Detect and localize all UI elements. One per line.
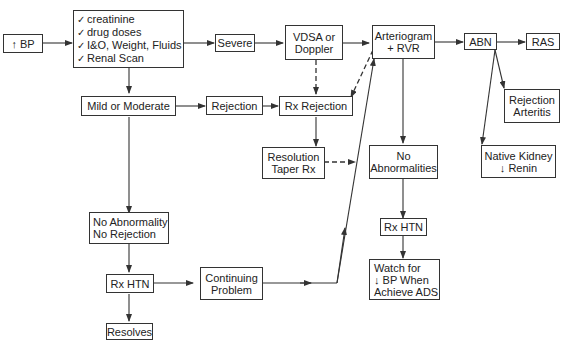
check-label: I&O, Weight, Fluids: [87, 39, 182, 51]
node-checks: ✓creatinine ✓drug doses ✓I&O, Weight, Fl…: [73, 10, 184, 68]
node-label: ↓ BP When: [374, 274, 429, 286]
node-label: Resolution: [268, 151, 320, 163]
edge-abn-native-kidney: [482, 50, 495, 144]
node-rejection: Rejection: [206, 96, 263, 115]
edge-continuing-arteriogram-mid: [337, 228, 345, 283]
node-label: Rx HTN: [110, 278, 149, 290]
node-label: Watch for: [374, 262, 421, 274]
node-label: VDSA or: [293, 31, 335, 43]
node-label: Arteritis: [513, 106, 550, 118]
node-label: No: [396, 150, 410, 162]
node-label: Problem: [211, 284, 252, 296]
node-label: + RVR: [387, 42, 420, 54]
check-label: Renal Scan: [87, 52, 144, 64]
node-label: No Abnormality: [93, 216, 168, 228]
node-rejection-arteritis: Rejection Arteritis: [504, 89, 560, 123]
node-rx-rejection: Rx Rejection: [279, 96, 353, 116]
checkmark-icon: ✓: [77, 27, 85, 38]
node-resolves: Resolves: [106, 323, 153, 340]
checkmark-icon: ✓: [77, 53, 85, 64]
node-ras: RAS: [526, 33, 560, 50]
edge-abn-rejection-arteritis: [495, 50, 504, 88]
check-item: ✓drug doses: [77, 26, 141, 39]
node-vdsa-doppler: VDSA or Doppler: [285, 25, 343, 60]
node-label: Rx Rejection: [285, 100, 347, 112]
check-item: ✓I&O, Weight, Fluids: [77, 39, 182, 52]
node-label: ↓ Renin: [500, 162, 537, 174]
node-abn: ABN: [464, 33, 497, 50]
node-native-kidney: Native Kidney ↓ Renin: [481, 145, 556, 178]
node-label: Rejection: [212, 100, 258, 112]
node-watch-for: Watch for ↓ BP When Achieve ADS: [369, 259, 440, 300]
node-label: ABN: [469, 36, 492, 48]
checkmark-icon: ✓: [77, 14, 85, 25]
node-label: Native Kidney: [485, 150, 553, 162]
node-label: Mild or Moderate: [87, 100, 170, 112]
node-rx-htn-right: Rx HTN: [380, 218, 427, 236]
node-label: Severe: [218, 37, 253, 49]
node-label: Resolves: [107, 326, 152, 338]
node-label: No Rejection: [93, 228, 156, 240]
node-label: Rx HTN: [384, 221, 423, 233]
node-label: ↑ BP: [11, 38, 34, 50]
node-label: Taper Rx: [271, 163, 315, 175]
check-label: drug doses: [87, 26, 141, 38]
node-resolution-taper: Resolution Taper Rx: [262, 147, 325, 179]
node-label: Achieve ADS: [374, 286, 438, 298]
node-label: Rejection: [509, 94, 555, 106]
node-label: RAS: [532, 36, 555, 48]
check-label: creatinine: [87, 13, 135, 25]
node-continuing-problem: Continuing Problem: [200, 267, 263, 300]
node-no-abnormality-no-rejection: No Abnormality No Rejection: [89, 212, 169, 244]
node-mild-moderate: Mild or Moderate: [81, 96, 176, 116]
check-item: ✓Renal Scan: [77, 52, 144, 65]
node-no-abnormalities: No Abnormalities: [369, 145, 438, 179]
node-label: Abnormalities: [370, 162, 437, 174]
node-elevated-bp: ↑ BP: [3, 34, 43, 53]
node-rx-htn-left: Rx HTN: [106, 274, 154, 293]
check-item: ✓creatinine: [77, 13, 135, 26]
node-severe: Severe: [215, 34, 255, 52]
edge-arteriogram-rxrejection-dashed: [351, 50, 373, 97]
node-label: Continuing: [205, 272, 258, 284]
checkmark-icon: ✓: [77, 40, 85, 51]
node-label: Arteriogram: [375, 30, 432, 42]
node-arteriogram-rvr: Arteriogram + RVR: [372, 25, 435, 59]
flowchart-canvas: ↑ BP ✓creatinine ✓drug doses ✓I&O, Weigh…: [0, 0, 566, 342]
node-label: Doppler: [295, 43, 334, 55]
